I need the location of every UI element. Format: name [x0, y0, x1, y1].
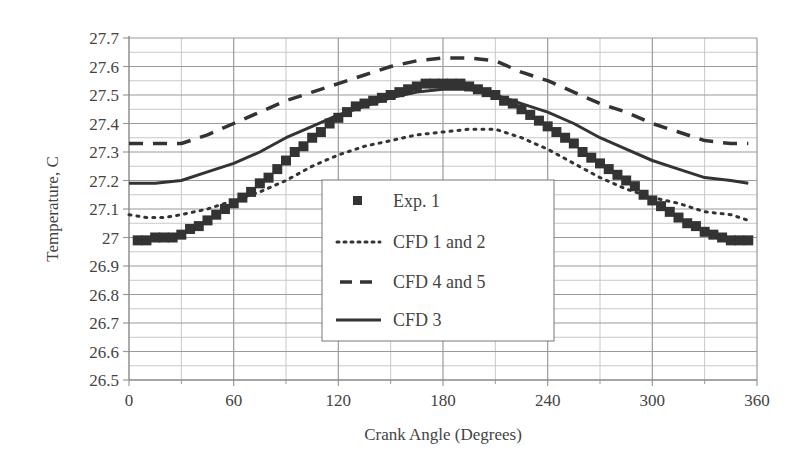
- data-point-square: [133, 235, 143, 245]
- data-point-square: [421, 79, 431, 89]
- legend-square-marker-icon: [353, 196, 362, 205]
- data-point-square: [438, 79, 448, 89]
- data-point-square: [298, 141, 308, 151]
- y-tick-label: 26.7: [89, 314, 119, 333]
- data-point-square: [307, 133, 317, 143]
- x-tick-label: 360: [744, 391, 770, 410]
- data-point-square: [560, 133, 570, 143]
- legend-label-cfd3: CFD 3: [393, 310, 442, 330]
- data-point-square: [290, 147, 300, 157]
- data-point-square: [211, 210, 221, 220]
- data-point-square: [569, 138, 579, 148]
- data-point-square: [621, 176, 631, 186]
- data-point-square: [525, 110, 535, 120]
- data-point-square: [578, 147, 588, 157]
- x-axis-tick-labels: 060120180240300360: [125, 391, 770, 410]
- data-point-square: [141, 235, 151, 245]
- data-point-square: [455, 79, 465, 89]
- data-point-square: [656, 201, 666, 211]
- x-tick-label: 0: [125, 391, 134, 410]
- data-point-square: [429, 79, 439, 89]
- data-point-square: [543, 121, 553, 131]
- data-point-square: [708, 230, 718, 240]
- data-point-square: [586, 153, 596, 163]
- data-point-square: [682, 218, 692, 228]
- legend: Exp. 1 CFD 1 and 2 CFD 4 and 5 CFD 3: [322, 180, 554, 341]
- y-tick-label: 26.8: [89, 286, 119, 305]
- y-tick-label: 26.6: [89, 343, 119, 362]
- data-point-square: [735, 235, 745, 245]
- series-cfd45-dashed-line: [129, 58, 748, 144]
- data-point-square: [168, 233, 178, 243]
- data-point-square: [316, 127, 326, 137]
- data-point-square: [203, 215, 213, 225]
- y-axis-title: Temperature, C: [43, 156, 62, 262]
- y-axis-tick-labels: 26.526.626.726.826.92727.127.227.327.427…: [89, 29, 119, 390]
- data-point-square: [743, 235, 753, 245]
- data-point-square: [255, 178, 265, 188]
- data-point-square: [534, 116, 544, 126]
- legend-label-cfd12: CFD 1 and 2: [393, 232, 486, 252]
- data-point-square: [264, 173, 274, 183]
- data-point-square: [726, 235, 736, 245]
- y-tick-label: 27.7: [89, 29, 119, 48]
- x-tick-label: 60: [225, 391, 242, 410]
- y-tick-label: 26.9: [89, 257, 119, 276]
- data-point-square: [595, 158, 605, 168]
- data-point-square: [674, 213, 684, 223]
- data-point-square: [665, 207, 675, 217]
- y-tick-label: 27.4: [89, 115, 119, 134]
- data-point-square: [281, 156, 291, 166]
- data-point-square: [150, 233, 160, 243]
- data-point-square: [717, 233, 727, 243]
- y-tick-label: 27.2: [89, 172, 119, 191]
- data-point-square: [176, 230, 186, 240]
- data-point-square: [412, 81, 422, 91]
- legend-label-exp1: Exp. 1: [393, 191, 440, 211]
- y-tick-label: 27: [102, 229, 120, 248]
- data-point-square: [194, 221, 204, 231]
- x-tick-label: 240: [535, 391, 561, 410]
- series-cfd3-solid-line: [129, 89, 748, 183]
- x-axis-title: Crank Angle (Degrees): [364, 425, 522, 444]
- data-point-square: [691, 221, 701, 231]
- y-tick-label: 27.5: [89, 86, 119, 105]
- data-point-square: [604, 164, 614, 174]
- line-chart-svg: 26.526.626.726.826.92727.127.227.327.427…: [0, 0, 810, 472]
- data-point-square: [447, 79, 457, 89]
- y-tick-label: 27.6: [89, 58, 119, 77]
- data-point-square: [551, 127, 561, 137]
- data-point-square: [700, 227, 710, 237]
- data-point-square: [185, 224, 195, 234]
- data-point-square: [612, 170, 622, 180]
- y-tick-label: 27.1: [89, 200, 119, 219]
- x-tick-label: 180: [430, 391, 456, 410]
- x-tick-label: 120: [326, 391, 352, 410]
- data-point-square: [272, 164, 282, 174]
- y-tick-label: 27.3: [89, 143, 119, 162]
- y-tick-label: 26.5: [89, 371, 119, 390]
- data-point-square: [220, 204, 230, 214]
- data-point-square: [159, 233, 169, 243]
- legend-label-cfd45: CFD 4 and 5: [393, 272, 486, 292]
- chart: 26.526.626.726.826.92727.127.227.327.427…: [0, 0, 810, 472]
- x-tick-label: 300: [640, 391, 666, 410]
